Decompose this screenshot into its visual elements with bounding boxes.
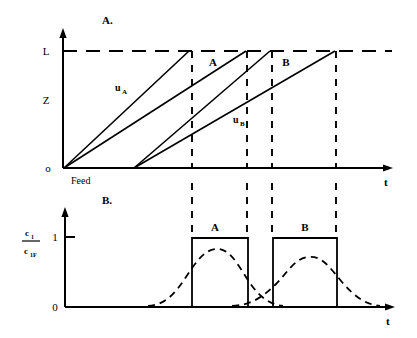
panel-a-label-uB-sub: B bbox=[240, 120, 245, 128]
panel-b-y-axis bbox=[61, 207, 68, 307]
panel-b-peak-label-B: B bbox=[301, 221, 309, 233]
panel-b-x-axis-arrowhead bbox=[385, 303, 395, 310]
panel-b-x-axis bbox=[65, 303, 395, 310]
panel-b-ylabel-fraction: c 1 c 1F bbox=[22, 228, 40, 258]
panel-b-label: B. bbox=[102, 194, 112, 206]
panel-a-xlabel-t: t bbox=[384, 176, 388, 188]
panel-a-label-uA-base: u bbox=[115, 82, 121, 93]
panel-b-group: B. 1 0 c 1 c 1F bbox=[22, 183, 395, 327]
panel-a-label: A. bbox=[102, 14, 113, 26]
panel-b-y-axis-arrowhead bbox=[61, 207, 68, 217]
panel-a-y-axis-arrowhead bbox=[59, 28, 66, 38]
panel-b-ylabel-denominator-sub: 1F bbox=[30, 252, 37, 258]
panel-b-rect-pulse-B bbox=[273, 238, 337, 307]
two-panel-chromatography-diagram: A. L Z o t Feed bbox=[0, 0, 417, 338]
panel-b-ylabel-numerator-sub: 1 bbox=[31, 234, 34, 240]
panel-a-y-axis bbox=[59, 28, 66, 168]
panel-a-label-uB-base: u bbox=[233, 114, 239, 125]
panel-b-xlabel-t: t bbox=[386, 315, 390, 327]
panel-b-elution-curve-B bbox=[232, 257, 380, 306]
panel-a-feed-label: Feed bbox=[71, 175, 90, 186]
panel-a-trajectory-uA-pulse1 bbox=[64, 51, 189, 168]
panel-a-ylabel-L: L bbox=[43, 45, 50, 57]
panel-b-ylabel-numerator: c bbox=[25, 228, 29, 238]
panel-a-label-uB: u B bbox=[233, 114, 245, 128]
panel-a-ylabel-origin: o bbox=[45, 162, 51, 174]
panel-a-label-uA: u A bbox=[115, 82, 127, 96]
panel-b-elution-curve-A bbox=[148, 249, 283, 306]
panel-b-peak-label-A: A bbox=[211, 221, 219, 233]
figure-container: A. L Z o t Feed bbox=[0, 0, 417, 338]
panel-b-ylabel-denominator: c bbox=[24, 246, 28, 256]
panel-a-label-uA-sub: A bbox=[122, 88, 127, 96]
panel-a-ylabel-Z: Z bbox=[43, 94, 50, 106]
panel-a-peak-label-A: A bbox=[209, 56, 217, 68]
panel-b-ylabel-zero: 0 bbox=[52, 301, 58, 313]
panel-a-peak-label-B: B bbox=[282, 56, 290, 68]
panel-a-trajectory-uB-pulse2 bbox=[134, 51, 335, 168]
panel-a-group: A. L Z o t Feed bbox=[43, 14, 393, 188]
panel-b-ylabel-one: 1 bbox=[52, 231, 58, 243]
panel-a-x-axis bbox=[63, 164, 393, 171]
panel-a-x-axis-arrowhead bbox=[383, 164, 393, 171]
